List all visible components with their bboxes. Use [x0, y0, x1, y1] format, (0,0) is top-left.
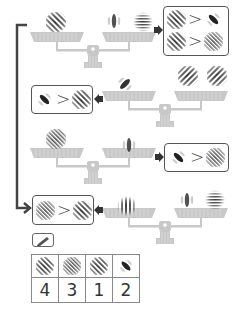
grating-diag-blob-icon: [117, 257, 135, 275]
table-cell: [32, 255, 59, 278]
grating-diag-medium-icon: [73, 201, 92, 220]
greater-than-sign: >: [57, 202, 71, 219]
grating-diag-blob-icon: [35, 90, 54, 109]
pencil-icon: [33, 234, 53, 246]
greater-than-sign: >: [190, 149, 204, 166]
comparison-box-4: >: [32, 195, 94, 225]
patch-row: [32, 255, 140, 278]
balance-scale: [30, 144, 160, 189]
table-cell: [86, 255, 113, 278]
greater-than-sign: >: [56, 91, 70, 108]
table-cell: [113, 255, 140, 278]
row-3: >: [0, 122, 247, 184]
comparison-box-1: > >: [163, 6, 229, 56]
grating-diag-fine-icon: [204, 32, 223, 51]
rank-value[interactable]: 2: [113, 278, 140, 303]
grating-horizontal-fine-icon: [205, 190, 225, 210]
comparison-box-3: >: [164, 143, 229, 172]
row-2: >: [0, 60, 247, 122]
grating-diag-fine-icon: [63, 257, 81, 275]
rank-value[interactable]: 4: [32, 278, 59, 303]
rank-value[interactable]: 1: [86, 278, 113, 303]
grating-diag-medium-icon: [36, 257, 54, 275]
grating-vertical-blob-icon: [177, 190, 197, 210]
grating-diag-blob-icon: [169, 148, 188, 167]
arrow-left-icon: [94, 205, 103, 215]
greater-than-sign: >: [188, 33, 202, 50]
arrow-left-icon: [94, 94, 103, 104]
rank-row: 4 3 1 2: [32, 278, 140, 303]
grating-diag-medium-up-icon: [207, 66, 227, 86]
row-4: >: [0, 184, 247, 234]
row-1: > >: [0, 0, 247, 60]
grating-vertical-blob-icon: [119, 135, 139, 155]
rank-value[interactable]: 3: [59, 278, 86, 303]
grating-diag-blob-icon: [204, 10, 223, 29]
grating-vertical-medium-icon: [117, 196, 137, 216]
grating-diag-blob-up-icon: [115, 74, 135, 94]
greater-than-sign: >: [188, 11, 202, 28]
arrow-right-icon: [155, 152, 164, 162]
grating-diag-medium-icon: [46, 12, 66, 32]
grating-diag-medium-icon: [167, 32, 186, 51]
table-cell: [59, 255, 86, 278]
grating-diag-fine-icon: [46, 129, 66, 149]
grating-vertical-blob-icon: [104, 11, 124, 31]
grating-diag-medium-up-icon: [178, 66, 198, 86]
ranking-table: 4 3 1 2: [31, 254, 140, 303]
comparison-box-2: >: [31, 85, 93, 114]
pencil-button[interactable]: [32, 233, 54, 247]
grating-diag-fine-icon: [206, 148, 225, 167]
grating-horizontal-fine-icon: [133, 12, 153, 32]
grating-diag-medium-icon: [90, 257, 108, 275]
arrow-right-icon: [154, 25, 163, 35]
grating-diag-medium-icon: [167, 10, 186, 29]
grating-diag-medium-icon: [72, 90, 91, 109]
grating-diag-fine-icon: [36, 201, 55, 220]
